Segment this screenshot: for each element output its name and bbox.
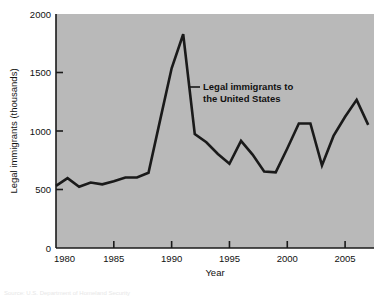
y-axis-title: Legal immigrants (thousands) <box>8 68 19 193</box>
source-note: Source: U.S. Department of Homeland Secu… <box>4 290 130 296</box>
x-axis-tick-labels: 198019851990199520002005 <box>54 253 356 264</box>
y-axis-tick-labels: 0500100015002000 <box>30 9 51 254</box>
x-axis-title: Year <box>205 267 224 278</box>
chart-figure: 0500100015002000 19801985199019952000200… <box>0 0 387 296</box>
x-axis-tick-label: 1985 <box>103 253 124 264</box>
x-axis-tick-label: 2005 <box>335 253 356 264</box>
annotation-label-line2: the United States <box>203 93 281 104</box>
y-axis-tick-label: 0 <box>46 243 51 254</box>
x-axis-tick-label: 2000 <box>277 253 298 264</box>
y-axis-tick-label: 1000 <box>30 126 51 137</box>
y-axis-tick-label: 1500 <box>30 67 51 78</box>
y-axis-tick-label: 2000 <box>30 9 51 20</box>
y-axis-tick-label: 500 <box>35 184 51 195</box>
plot-area-background <box>56 14 374 248</box>
x-axis-tick-label: 1995 <box>219 253 240 264</box>
x-axis-tick-label: 1980 <box>54 253 75 264</box>
annotation-label-line1: Legal immigrants to <box>203 81 293 92</box>
line-chart: 0500100015002000 19801985199019952000200… <box>0 0 387 296</box>
x-axis-tick-label: 1990 <box>161 253 182 264</box>
